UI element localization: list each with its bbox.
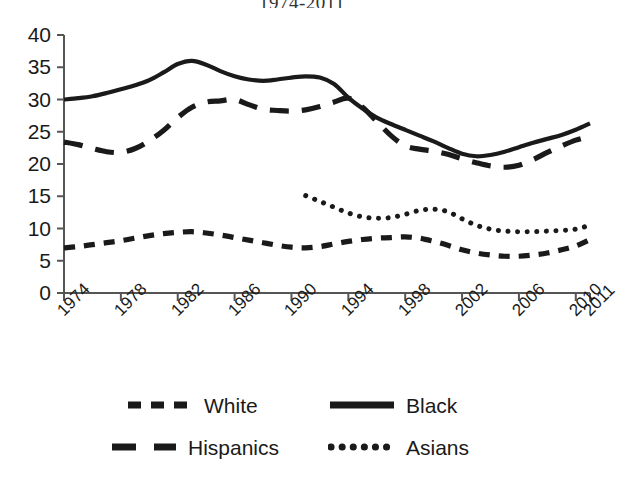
legend-swatch-black bbox=[328, 398, 396, 412]
y-axis-tick-label: 35 bbox=[11, 56, 51, 77]
y-axis-tick-label: 20 bbox=[11, 153, 51, 174]
legend-swatch-hispanics bbox=[110, 440, 178, 454]
y-axis-ticks bbox=[57, 35, 64, 293]
data-series-group bbox=[64, 61, 590, 257]
legend-swatch-white bbox=[126, 398, 194, 412]
y-axis-tick-label: 5 bbox=[11, 250, 51, 271]
series-line-asians bbox=[306, 196, 590, 232]
legend-row: White Black bbox=[110, 388, 510, 422]
series-line-hispanics bbox=[64, 98, 590, 167]
legend-item-asians[interactable]: Asians bbox=[328, 437, 469, 458]
legend-item-white[interactable]: White bbox=[126, 395, 258, 416]
y-axis-tick-label: 15 bbox=[11, 185, 51, 206]
y-axis-tick-label: 30 bbox=[11, 89, 51, 110]
chart-legend: White Black Hispanics Asians bbox=[110, 388, 510, 468]
legend-label-hispanics: Hispanics bbox=[188, 437, 279, 458]
legend-label-white: White bbox=[204, 395, 258, 416]
y-axis-tick-label: 0 bbox=[11, 282, 51, 303]
legend-swatch-asians bbox=[328, 440, 396, 454]
legend-item-hispanics[interactable]: Hispanics bbox=[110, 437, 279, 458]
series-line-white bbox=[64, 232, 590, 257]
y-axis-tick-label: 40 bbox=[11, 24, 51, 45]
y-axis-tick-label: 25 bbox=[11, 121, 51, 142]
legend-label-asians: Asians bbox=[406, 437, 469, 458]
legend-item-black[interactable]: Black bbox=[328, 395, 457, 416]
legend-row: Hispanics Asians bbox=[110, 430, 510, 464]
legend-label-black: Black bbox=[406, 395, 457, 416]
y-axis-tick-label: 10 bbox=[11, 218, 51, 239]
